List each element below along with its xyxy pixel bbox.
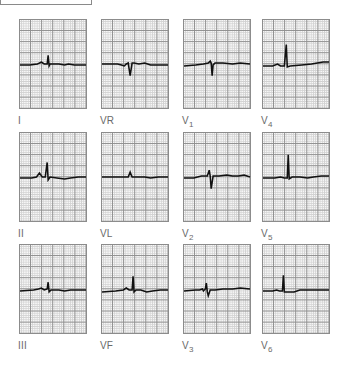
lead-label: VR xyxy=(100,115,114,129)
ecg-trace-lead-VL xyxy=(102,133,168,221)
ecg-trace-lead-V4 xyxy=(263,20,329,108)
ecg-trace-lead-V6 xyxy=(263,245,329,333)
lead-VL: VL xyxy=(101,132,169,222)
lead-I: I xyxy=(19,19,87,109)
lead-label: I xyxy=(18,115,21,129)
lead-II: II xyxy=(19,132,87,222)
ecg-grid-panel xyxy=(183,244,251,334)
lead-V3: V3 xyxy=(183,244,251,334)
ecg-grid-panel xyxy=(101,244,169,334)
lead-label: V4 xyxy=(261,115,273,129)
ecg-grid-panel xyxy=(183,19,251,109)
ecg-grid-panel xyxy=(262,244,330,334)
ecg-trace-lead-III xyxy=(20,245,86,333)
lead-label: V3 xyxy=(182,340,194,354)
lead-label: V1 xyxy=(182,115,194,129)
ecg-trace-lead-II xyxy=(20,133,86,221)
lead-label: III xyxy=(18,340,27,354)
lead-label: V6 xyxy=(261,340,273,354)
ecg-grid-panel xyxy=(101,19,169,109)
ecg-trace-lead-VR xyxy=(102,20,168,108)
lead-V4: V4 xyxy=(262,19,330,109)
ecg-trace-lead-VF xyxy=(102,245,168,333)
lead-VF: VF xyxy=(101,244,169,334)
lead-label: VF xyxy=(100,340,113,354)
lead-label: V2 xyxy=(182,228,194,242)
ecg-trace-lead-I xyxy=(20,20,86,108)
lead-label: II xyxy=(18,228,24,242)
ecg-grid-panel xyxy=(183,132,251,222)
ecg-grid-panel xyxy=(262,132,330,222)
ecg-grid-panel xyxy=(19,244,87,334)
lead-label: V5 xyxy=(261,228,273,242)
lead-V2: V2 xyxy=(183,132,251,222)
lead-V6: V6 xyxy=(262,244,330,334)
lead-V5: V5 xyxy=(262,132,330,222)
caption-box-border xyxy=(0,0,92,5)
ecg-trace-lead-V1 xyxy=(184,20,250,108)
lead-VR: VR xyxy=(101,19,169,109)
ecg-trace-lead-V5 xyxy=(263,133,329,221)
lead-III: III xyxy=(19,244,87,334)
ecg-grid-panel xyxy=(101,132,169,222)
ecg-grid-panel xyxy=(19,132,87,222)
lead-label: VL xyxy=(100,228,113,242)
ecg-trace-lead-V2 xyxy=(184,133,250,221)
lead-V1: V1 xyxy=(183,19,251,109)
ecg-grid-panel xyxy=(262,19,330,109)
ecg-grid-panel xyxy=(19,19,87,109)
ecg-trace-lead-V3 xyxy=(184,245,250,333)
